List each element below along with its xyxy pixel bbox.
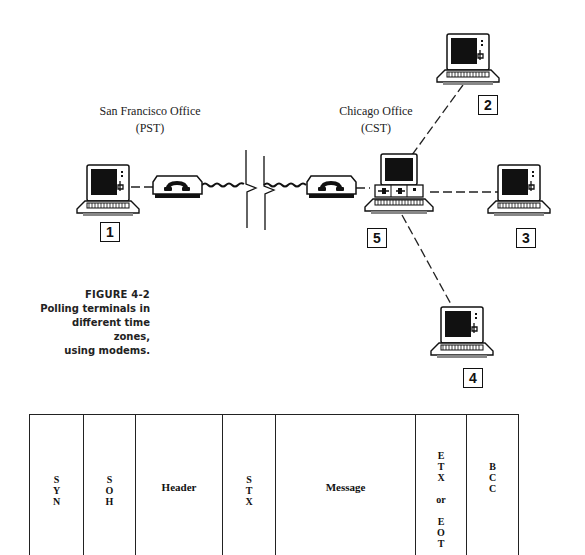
caption-line-2: different time zones, <box>40 316 150 344</box>
frame-field-header: Header <box>135 415 222 555</box>
figure-caption: FIGURE 4-2 Polling terminals in differen… <box>40 288 150 358</box>
terminal-2-icon <box>437 34 499 85</box>
terminal-3-label: 3 <box>516 228 536 248</box>
phone-line <box>202 183 306 186</box>
line-break-icon <box>246 150 274 230</box>
message-frame-format: S Y N S O H Header S T X Message E T X o… <box>29 414 519 555</box>
terminal-1-label: 1 <box>100 222 120 242</box>
terminal-4-icon <box>431 307 493 358</box>
terminal-5-label: 5 <box>367 228 387 248</box>
frame-field-soh: S O H <box>83 415 135 555</box>
terminal-4-label: 4 <box>463 368 483 388</box>
terminal-3-icon <box>488 165 550 216</box>
figure-number: FIGURE 4-2 <box>40 288 150 302</box>
controller-5-icon <box>365 154 433 214</box>
frame-field-stx: S T X <box>222 415 275 555</box>
caption-line-1: Polling terminals in <box>40 302 150 316</box>
frame-field-bcc: B C C <box>466 415 519 555</box>
frame-field-syn: S Y N <box>29 415 83 555</box>
modem-sf-icon <box>153 176 202 198</box>
modem-chicago-icon <box>307 176 356 198</box>
terminal-1-icon <box>77 165 139 216</box>
frame-field-message: Message <box>275 415 415 555</box>
frame-field-etx-eot: E T X or E O T <box>415 415 466 555</box>
terminal-2-label: 2 <box>478 95 498 115</box>
caption-line-3: using modems. <box>40 344 150 358</box>
